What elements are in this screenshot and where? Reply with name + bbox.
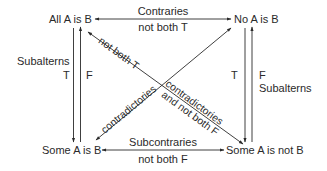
corner-no-a-is-b: No A is B <box>234 13 279 25</box>
right-subalterns-f-label: F <box>259 69 266 81</box>
left-subalterns-t-label: T <box>63 69 70 81</box>
left-subalterns-f-label: F <box>86 69 93 81</box>
contraries-label: Contraries <box>113 5 213 17</box>
corner-all-a-is-b: All A is B <box>49 13 92 25</box>
subcontraries-rule: not both F <box>113 153 213 165</box>
subcontraries-label: Subcontraries <box>113 136 213 148</box>
right-subalterns-label: Subalterns <box>259 82 312 94</box>
contraries-rule: not both T <box>113 21 213 33</box>
corner-some-a-is-not-b: Some A is not B <box>226 144 304 156</box>
left-subalterns-label: Subalterns <box>17 55 70 67</box>
right-subalterns-t-label: T <box>231 69 238 81</box>
corner-some-a-is-b: Some A is B <box>42 144 101 156</box>
square-of-opposition-diagram: All A is B No A is B Some A is B Some A … <box>0 0 327 171</box>
